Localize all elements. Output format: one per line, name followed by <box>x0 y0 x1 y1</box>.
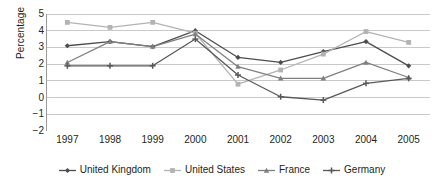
legend-item-united-states[interactable]: United States <box>164 165 245 175</box>
data-point <box>363 60 369 65</box>
data-point <box>278 68 283 73</box>
data-point <box>65 20 70 25</box>
square-marker-icon <box>164 166 181 175</box>
data-point <box>65 167 70 172</box>
y-axis-tick-label: 4 <box>38 26 44 36</box>
data-point <box>170 168 175 173</box>
y-axis-tick-label: 0 <box>38 93 44 103</box>
x-axis-tick-label: 2004 <box>355 134 377 146</box>
x-axis-tick-label: 2003 <box>312 134 334 146</box>
line-chart: Percentage 543210−1−2 199719981999200020… <box>0 0 444 186</box>
x-axis-tick-label: 1999 <box>142 134 164 146</box>
data-point <box>150 20 155 25</box>
series-plot <box>46 14 430 131</box>
y-axis-tick-label: 2 <box>38 59 44 69</box>
series-line <box>67 39 408 100</box>
x-axis-tick-label: 2000 <box>184 134 206 146</box>
data-point <box>406 40 411 45</box>
diamond-marker-icon <box>59 166 76 175</box>
chart-legend: United KingdomUnited StatesFranceGermany <box>0 161 444 179</box>
legend-label: France <box>279 165 310 175</box>
data-point <box>321 52 326 57</box>
data-point <box>364 29 369 34</box>
legend-item-germany[interactable]: Germany <box>323 165 385 175</box>
y-axis-tick-label: 3 <box>38 42 44 52</box>
x-axis-tick-label: 1998 <box>99 134 121 146</box>
y-axis-tick-labels: 543210−1−2 <box>24 14 44 131</box>
y-axis-tick-label: 1 <box>38 76 44 86</box>
x-axis-tick-label: 1997 <box>56 134 78 146</box>
y-axis-tick-label: −1 <box>33 109 44 119</box>
legend-item-france[interactable]: France <box>258 165 310 175</box>
cross-marker-icon <box>323 166 340 175</box>
x-axis-tick-label: 2001 <box>227 134 249 146</box>
triangle-marker-icon <box>258 166 275 175</box>
x-axis-tick-label: 2002 <box>270 134 292 146</box>
x-axis-tick-label: 2005 <box>398 134 420 146</box>
legend-label: United Kingdom <box>80 165 151 175</box>
y-axis-tick-label: −2 <box>33 126 44 136</box>
data-point <box>278 94 284 100</box>
data-point <box>236 82 241 87</box>
data-point <box>363 39 368 44</box>
legend-label: Germany <box>344 165 385 175</box>
plot-area <box>46 14 430 131</box>
x-axis-tick-labels: 199719981999200020012002200320042005 <box>46 134 430 148</box>
data-point <box>329 167 335 173</box>
data-point <box>108 25 113 30</box>
legend-label: United States <box>185 165 245 175</box>
legend-item-united-kingdom[interactable]: United Kingdom <box>59 165 151 175</box>
y-axis-tick-label: 5 <box>38 9 44 19</box>
